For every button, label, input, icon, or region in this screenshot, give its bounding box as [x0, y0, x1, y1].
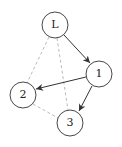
- node-label-3: 3: [57, 110, 83, 136]
- node-label-1: 1: [86, 61, 112, 87]
- edge-2-3: [33, 104, 58, 118]
- graph-diagram: L 1 2 3: [0, 0, 122, 147]
- edge-L-1: [64, 35, 90, 63]
- edge-L-2: [27, 37, 49, 83]
- edge-L-3: [57, 38, 68, 110]
- node-label-L: L: [42, 12, 68, 38]
- node-label-2: 2: [10, 82, 36, 108]
- edge-1-2: [36, 77, 86, 89]
- edge-1-3: [79, 86, 92, 111]
